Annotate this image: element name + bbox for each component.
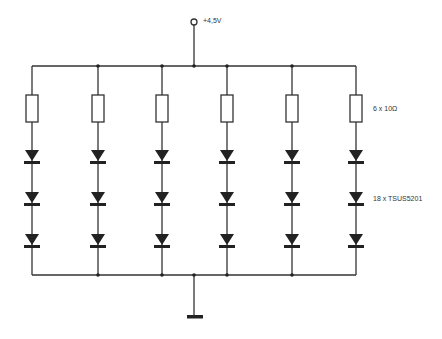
supply-terminal-icon (191, 19, 197, 25)
junction-dot (160, 273, 164, 277)
supply-label: +4,5V (203, 17, 222, 24)
diode-label: 18 x TSUS5201 (373, 195, 422, 202)
diode-icon (219, 150, 235, 164)
diode-icon (348, 150, 364, 164)
diode-icon (24, 192, 40, 206)
diode-icon (24, 234, 40, 248)
diode-icon (24, 150, 40, 164)
resistor-label: 6 x 10Ω (373, 105, 397, 112)
junction-dot (192, 273, 196, 277)
diode-icon (90, 234, 106, 248)
resistor-icon (156, 95, 168, 122)
diode-icon (154, 234, 170, 248)
diode-icon (284, 150, 300, 164)
junction-dot (290, 64, 294, 68)
diode-icon (284, 234, 300, 248)
resistor-icon (26, 95, 38, 122)
circuit-diagram: +4,5V 6 x 10Ω 18 x TSUS5201 (0, 0, 442, 339)
diode-icon (90, 192, 106, 206)
junction-dot (160, 64, 164, 68)
junction-dot (290, 273, 294, 277)
diode-icon (154, 150, 170, 164)
diode-icon (154, 192, 170, 206)
diode-icon (219, 192, 235, 206)
branch (90, 66, 106, 275)
resistor-icon (350, 95, 362, 122)
junction-dot (225, 273, 229, 277)
branch (284, 66, 300, 275)
branch (154, 66, 170, 275)
junction-dot (96, 64, 100, 68)
diode-icon (90, 150, 106, 164)
junction-dot (96, 273, 100, 277)
branch (24, 66, 40, 275)
ground-icon (187, 315, 203, 319)
diode-icon (348, 234, 364, 248)
branch (219, 66, 235, 275)
junction-dot (225, 64, 229, 68)
diode-icon (284, 192, 300, 206)
schematic-drawing (0, 0, 442, 339)
resistor-icon (286, 95, 298, 122)
resistor-icon (221, 95, 233, 122)
diode-icon (348, 192, 364, 206)
diode-icon (219, 234, 235, 248)
branch (348, 66, 364, 275)
resistor-icon (92, 95, 104, 122)
junction-dot (192, 64, 196, 68)
